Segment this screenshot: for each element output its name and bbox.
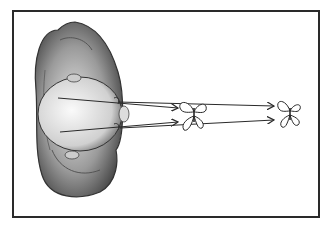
near-butterfly	[180, 102, 206, 130]
head-top-view	[35, 22, 129, 197]
far-butterfly	[278, 101, 301, 127]
illustration	[0, 0, 334, 225]
